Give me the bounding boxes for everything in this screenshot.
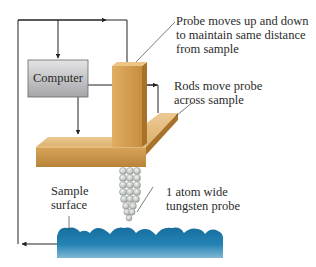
probe-post (112, 62, 147, 147)
annotation-line: Probe moves up and down (176, 14, 309, 28)
annotation-tungsten-probe: 1 atom wide tungsten probe (166, 185, 240, 213)
stm-diagram: Computer Probe moves up and down to main… (0, 0, 316, 267)
rods-line (146, 85, 158, 113)
annotation-rods-move: Rods move probe across sample (174, 79, 262, 107)
annotation-sample-surface: Sample surface (51, 184, 89, 212)
annotation-line: across sample (174, 93, 262, 107)
annotation-probe-moves: Probe moves up and down to maintain same… (176, 14, 309, 56)
probe-moves-leader (136, 22, 175, 62)
annotation-line: 1 atom wide (166, 185, 240, 199)
annotation-line: surface (51, 198, 89, 212)
scanning-platform (36, 113, 178, 167)
annotation-line: from sample (176, 42, 309, 56)
tungsten-probe (119, 167, 140, 221)
annotation-line: to maintain same distance (176, 28, 309, 42)
sample-surface (57, 228, 223, 259)
annotation-line: Rods move probe (174, 79, 262, 93)
annotation-line: Sample (51, 184, 89, 198)
annotation-line: tungsten probe (166, 199, 240, 213)
computer-label: Computer (28, 60, 88, 97)
